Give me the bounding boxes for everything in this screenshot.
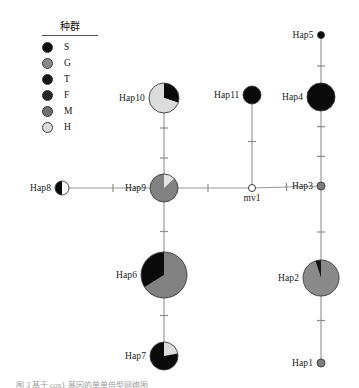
network-node-hap3[interactable] xyxy=(317,182,325,190)
legend-item-h: H xyxy=(42,119,112,135)
node-label-hap8: Hap8 xyxy=(30,183,51,193)
legend-swatch-icon xyxy=(42,74,53,85)
network-node-hap5[interactable] xyxy=(318,32,325,39)
legend-swatch-icon xyxy=(42,106,53,117)
node-label-hap11: Hap11 xyxy=(214,90,239,100)
legend-items: SGTFMH xyxy=(42,39,112,135)
node-label-hap7: Hap7 xyxy=(125,351,146,361)
legend-item-s: S xyxy=(42,39,112,55)
network-node-hap9[interactable] xyxy=(150,174,178,202)
node-label-hap6: Hap6 xyxy=(116,270,137,280)
legend-item-label: F xyxy=(64,90,69,100)
legend-item-label: G xyxy=(64,58,71,68)
legend-swatch-icon xyxy=(42,122,53,133)
haplotype-network-figure: Hap5Hap10Hap11Hap4Hap8Hap9mv1Hap3Hap6Hap… xyxy=(0,0,359,388)
node-slice-S xyxy=(55,181,62,195)
node-label-hap1: Hap1 xyxy=(292,358,313,368)
network-node-hap4[interactable] xyxy=(307,83,335,111)
node-label-hap10: Hap10 xyxy=(119,93,145,103)
network-node-hap1[interactable] xyxy=(317,359,325,367)
legend-item-label: T xyxy=(64,74,70,84)
legend-item-m: M xyxy=(42,103,112,119)
node-slice-H xyxy=(62,181,69,195)
legend-swatch-icon xyxy=(42,90,53,101)
legend-item-label: S xyxy=(64,42,69,52)
network-node-hap7[interactable] xyxy=(150,342,178,370)
node-label-hap3: Hap3 xyxy=(292,181,313,191)
legend-item-label: M xyxy=(64,106,72,116)
node-label-hap4: Hap4 xyxy=(282,92,303,102)
legend-item-g: G xyxy=(42,55,112,71)
network-node-hap10[interactable] xyxy=(149,83,179,113)
network-node-hap2[interactable] xyxy=(303,260,339,296)
node-label-hap9: Hap9 xyxy=(125,183,146,193)
node-label-mv1: mv1 xyxy=(244,193,261,203)
network-node-hap11[interactable] xyxy=(243,86,261,104)
figure-caption: 图 3 基于 cox1 基因的单单倍型网络图 xyxy=(0,379,359,388)
legend-item-label: H xyxy=(64,122,71,132)
legend-divider xyxy=(42,35,98,36)
legend-swatch-icon xyxy=(42,42,53,53)
network-node-mv1[interactable] xyxy=(249,185,256,192)
legend: 种群 SGTFMH xyxy=(42,18,112,135)
legend-item-t: T xyxy=(42,71,112,87)
network-node-hap8[interactable] xyxy=(55,181,69,195)
node-label-hap2: Hap2 xyxy=(278,273,299,283)
legend-item-f: F xyxy=(42,87,112,103)
network-node-hap6[interactable] xyxy=(141,252,187,298)
legend-swatch-icon xyxy=(42,58,53,69)
legend-title: 种群 xyxy=(44,18,96,35)
node-label-hap5: Hap5 xyxy=(293,30,314,40)
